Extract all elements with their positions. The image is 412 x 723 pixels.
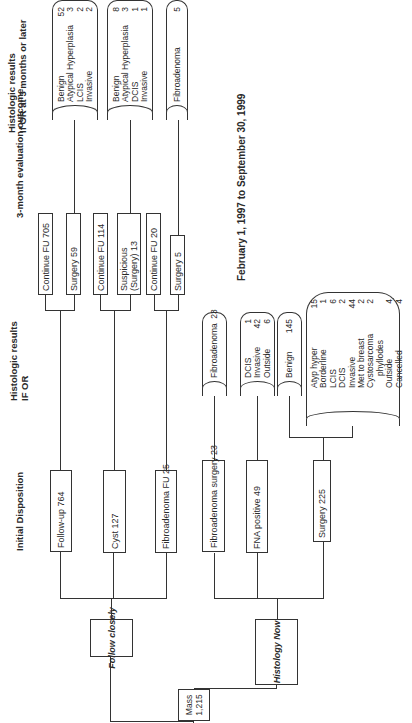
- outcome-surgery-5: Surgery 5: [170, 235, 185, 295]
- connector: [60, 552, 61, 599]
- connector: [257, 388, 258, 460]
- connector: [166, 552, 167, 599]
- connector: [110, 721, 194, 722]
- disposition-follow-up: Follow-up 764: [50, 470, 72, 552]
- connector: [45, 310, 75, 311]
- connector: [113, 552, 114, 599]
- outcome-suspicious-surgery: Suspicious(Surgery) 13: [117, 213, 141, 295]
- connector: [154, 295, 155, 311]
- outcome-continue-fu-114: Continue FU 114: [93, 213, 108, 295]
- connector: [154, 310, 179, 311]
- connector: [194, 688, 277, 689]
- heading-histologic-later: Histologic resultsIf OR at 3 months or l…: [6, 20, 28, 134]
- date-range-caption: February 1, 1997 to September 30, 1999: [236, 94, 247, 281]
- connector: [214, 388, 215, 460]
- connector: [130, 112, 131, 213]
- connector: [214, 598, 324, 599]
- disposition-cyst: Cyst 127: [103, 470, 126, 553]
- disposition-surgery-225: Surgery 225: [313, 460, 331, 542]
- follow-closely-box: Follow closely: [90, 619, 133, 657]
- histology-result-benign: Benign145: [277, 312, 302, 388]
- root-mass-box: Mass1,215: [178, 689, 210, 721]
- connector: [130, 295, 131, 311]
- connector: [45, 295, 46, 311]
- later-results-group-3: Fibroadenoma5: [166, 0, 188, 112]
- histology-result-fibroadenoma: Fibroadenoma23: [202, 312, 227, 388]
- connector: [74, 295, 75, 311]
- connector: [323, 438, 324, 460]
- connector: [166, 311, 167, 470]
- disposition-fna-positive: FNA positive 49: [246, 460, 268, 553]
- connector: [257, 553, 258, 599]
- connector: [100, 310, 131, 311]
- connector: [114, 311, 115, 470]
- outcome-surgery-59: Surgery 59: [66, 213, 81, 295]
- heading-histologic-if-or: Histologic resultsIF OR: [8, 321, 30, 401]
- connector: [100, 295, 101, 311]
- histology-result-fna: DCIS1 Invasive42 Outside6: [240, 312, 275, 388]
- connector: [289, 437, 353, 438]
- connector: [178, 112, 179, 235]
- later-results-group-2: Benign8 Atypical Hyperplasia3 DCIS1 Inva…: [107, 0, 153, 112]
- disposition-fibroadenoma-surgery: Fibroadenoma surgery 23: [202, 460, 225, 552]
- connector: [60, 311, 61, 470]
- connector: [277, 599, 278, 619]
- outcome-continue-fu-20: Continue FU 20: [146, 213, 161, 295]
- histology-result-surgery: Atyp hyper15 Borderline1 LCIS6 DCIS2 Inv…: [306, 292, 400, 418]
- connector: [74, 112, 75, 213]
- heading-initial-disposition: Initial Disposition: [14, 472, 25, 551]
- connector: [178, 295, 179, 311]
- outcome-continue-fu-705: Continue FU 705: [38, 213, 53, 295]
- histology-now-box: Histology Now: [255, 619, 298, 685]
- connector: [214, 553, 215, 599]
- connector: [323, 542, 324, 599]
- disposition-fibroadenoma-fu: Fibroadenoma FU 25: [155, 470, 177, 553]
- later-results-group-1: Benign52 Atypical Hyperplasia3 LCIS2 Inv…: [52, 0, 98, 112]
- connector: [111, 599, 112, 619]
